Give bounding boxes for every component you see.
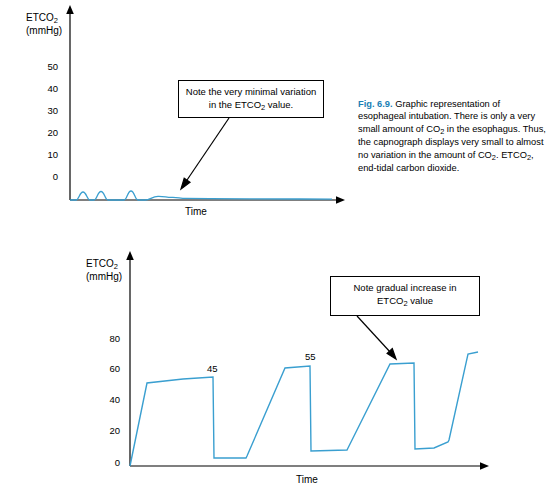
bottom-ytick-60: 60 <box>92 364 120 374</box>
top-ytick-20: 20 <box>30 128 58 138</box>
figure-gradual-increase-capnogram: ETCO2 (mmHg) 80 60 40 20 0 Time Note gra… <box>0 236 553 489</box>
bottom-annotation-callout: Note gradual increase in ETCO2 value <box>330 276 480 316</box>
bottom-y-axis-title-line1: ETCO <box>86 258 114 269</box>
bottom-y-axis-title-line2: (mmHg) <box>86 271 122 282</box>
figure-esophageal-capnogram: ETCO2 (mmHg) 50 40 30 20 10 0 Time Note … <box>0 0 553 232</box>
bottom-ytick-0: 0 <box>92 458 120 468</box>
top-ytick-0: 0 <box>30 172 58 182</box>
bottom-ytick-80: 80 <box>92 334 120 344</box>
top-y-axis-title-sub: 2 <box>54 16 58 25</box>
top-ytick-40: 40 <box>30 84 58 94</box>
figure-caption: Fig. 6.9. Graphic representation of esop… <box>358 98 546 174</box>
figure-bottom-svg <box>0 236 553 489</box>
caption-figure-number: Fig. 6.9. <box>358 99 393 109</box>
bottom-callout-line1: Note gradual increase in <box>354 282 457 293</box>
top-callout-line2-sub: 2 <box>261 103 265 112</box>
top-x-axis-title: Time <box>185 206 207 218</box>
top-callout-line2-pre: in the ETCO <box>209 99 261 110</box>
bottom-callout-line2-sub: 2 <box>403 299 407 308</box>
bottom-x-axis-title: Time <box>296 474 318 486</box>
bottom-callout-line2-post: value <box>408 295 433 306</box>
bottom-data-label-55: 55 <box>305 352 316 362</box>
top-ytick-10: 10 <box>30 150 58 160</box>
bottom-callout-arrow <box>357 316 396 359</box>
bottom-trace <box>130 352 478 466</box>
bottom-ytick-20: 20 <box>92 426 120 436</box>
top-callout-line1: Note the very minimal variation <box>186 86 316 97</box>
top-annotation-callout: Note the very minimal variation in the E… <box>178 80 324 118</box>
top-trace <box>70 191 332 200</box>
top-callout-arrow <box>181 118 229 189</box>
bottom-callout-line2-pre: ETCO <box>377 295 403 306</box>
top-y-axis-title-line1: ETCO <box>26 12 54 23</box>
top-y-axis-title-line2: (mmHg) <box>26 25 62 36</box>
caption-sub-1: 2 <box>440 127 444 136</box>
bottom-data-label-45: 45 <box>207 364 218 374</box>
top-y-axis-title: ETCO2 (mmHg) <box>26 12 62 37</box>
top-ytick-30: 30 <box>30 106 58 116</box>
top-ytick-50: 50 <box>30 62 58 72</box>
bottom-y-axis-title: ETCO2 (mmHg) <box>86 258 122 283</box>
bottom-y-axis-title-sub: 2 <box>114 262 118 271</box>
caption-sub-2: 2 <box>492 153 496 162</box>
top-callout-line2-post: value. <box>265 99 293 110</box>
caption-sub-3: 2 <box>527 153 531 162</box>
bottom-ytick-40: 40 <box>92 395 120 405</box>
caption-text-3: . ETCO <box>496 150 527 160</box>
